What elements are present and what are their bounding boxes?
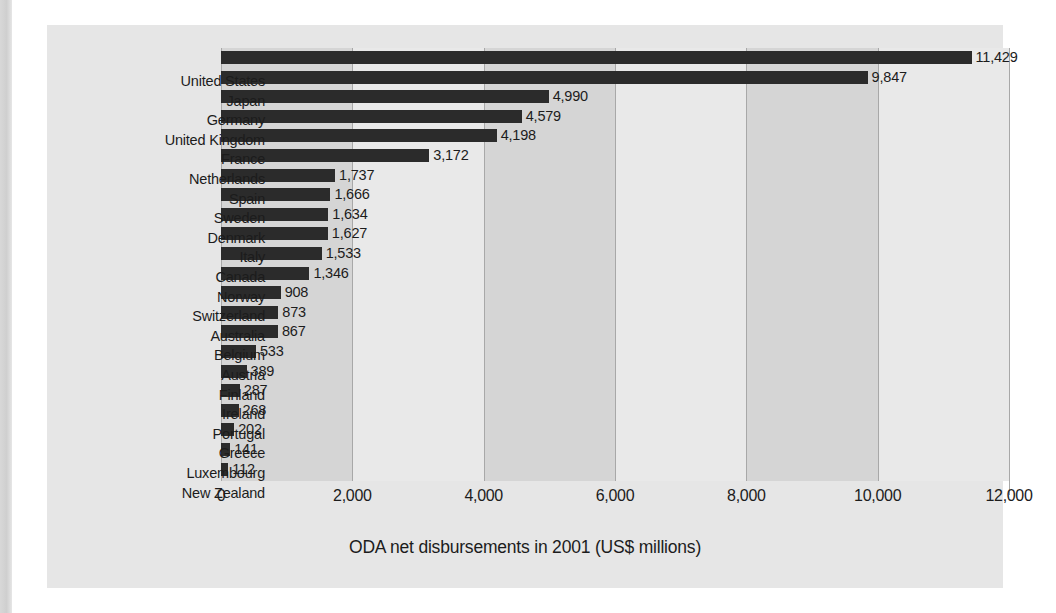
category-label: Spain	[229, 191, 265, 207]
bar[interactable]	[221, 51, 972, 64]
page-edge-strip	[0, 0, 12, 613]
bar-row: 4,579	[221, 107, 1009, 127]
bar-row: 4,198	[221, 126, 1009, 146]
bar-row: 389	[221, 362, 1009, 382]
bar-row: 867	[221, 322, 1009, 342]
bar[interactable]	[221, 110, 522, 123]
bar-row: 268	[221, 401, 1009, 421]
bar-value-label: 4,990	[553, 88, 588, 104]
bar-value-label: 1,634	[332, 206, 367, 222]
category-label: Netherlands	[189, 171, 265, 187]
x-axis-tick-labels: 02,0004,0006,0008,00010,00012,000	[221, 487, 1009, 517]
bar-value-label: 1,346	[313, 265, 348, 281]
bar-rows: 11,4299,8474,9904,5794,1983,1721,7371,66…	[221, 48, 1009, 481]
category-label: Greece	[219, 445, 265, 461]
bar-row: 908	[221, 283, 1009, 303]
category-label: Portugal	[213, 426, 265, 442]
category-label: Austria	[221, 367, 265, 383]
category-labels: United StatesJapanGermanyUnited KingdomF…	[107, 73, 265, 506]
bar-row: 112	[221, 460, 1009, 480]
bar-value-label: 1,666	[334, 186, 369, 202]
category-label: Switzerland	[192, 308, 265, 324]
bar-row: 3,172	[221, 146, 1009, 166]
bar-row: 4,990	[221, 87, 1009, 107]
bar-row: 202	[221, 420, 1009, 440]
bar-row: 287	[221, 381, 1009, 401]
category-label: Sweden	[214, 210, 265, 226]
figure-panel: 11,4299,8474,9904,5794,1983,1721,7371,66…	[47, 25, 1003, 588]
bar-value-label: 3,172	[433, 147, 468, 163]
bar-value-label: 4,579	[526, 108, 561, 124]
bar-row: 141	[221, 440, 1009, 460]
bar-row: 11,429	[221, 48, 1009, 68]
category-label: Denmark	[208, 230, 265, 246]
bar-row: 1,533	[221, 244, 1009, 264]
bar-value-label: 867	[282, 323, 306, 339]
category-label: Australia	[210, 328, 265, 344]
x-tick-label: 6,000	[596, 487, 635, 505]
category-label: Germany	[207, 112, 265, 128]
x-tick-label: 4,000	[464, 487, 503, 505]
bar-row: 1,346	[221, 264, 1009, 284]
x-tick-label: 0	[217, 487, 226, 505]
category-label: Finland	[219, 387, 265, 403]
category-label: Ireland	[222, 406, 265, 422]
category-label: Luxembourg	[186, 465, 265, 481]
bar-row: 9,847	[221, 68, 1009, 88]
bar[interactable]	[221, 90, 549, 103]
bar-row: 1,634	[221, 205, 1009, 225]
category-label: Canada	[215, 269, 265, 285]
bar[interactable]	[221, 71, 868, 84]
bar-value-label: 1,737	[339, 167, 374, 183]
bar-row: 1,627	[221, 224, 1009, 244]
plot-area: 11,4299,8474,9904,5794,1983,1721,7371,66…	[221, 48, 1009, 481]
x-tick-label: 10,000	[854, 487, 901, 505]
category-label: United States	[181, 73, 265, 89]
bar-value-label: 1,533	[326, 245, 361, 261]
bar-value-label: 1,627	[332, 225, 367, 241]
bar-value-label: 873	[282, 304, 306, 320]
chart-caption: ODA net disbursements in 2001 (US$ milli…	[47, 537, 1003, 558]
category-label: Norway	[217, 289, 265, 305]
bar-value-label: 11,429	[976, 49, 1018, 65]
category-label: Italy	[239, 249, 265, 265]
bar-row: 1,666	[221, 185, 1009, 205]
category-label: United Kingdom	[165, 132, 265, 148]
category-label: Japan	[226, 93, 265, 109]
bar-row: 1,737	[221, 166, 1009, 186]
x-tick-label: 8,000	[727, 487, 766, 505]
category-label: Belgium	[214, 347, 265, 363]
bar-row: 873	[221, 303, 1009, 323]
bar-value-label: 4,198	[501, 127, 536, 143]
bar-value-label: 9,847	[872, 69, 907, 85]
x-tick-label: 2,000	[333, 487, 372, 505]
bar-value-label: 908	[285, 284, 309, 300]
gridline	[1009, 48, 1010, 495]
x-tick-label: 12,000	[985, 487, 1032, 505]
category-label: France	[221, 151, 265, 167]
bar-row: 533	[221, 342, 1009, 362]
